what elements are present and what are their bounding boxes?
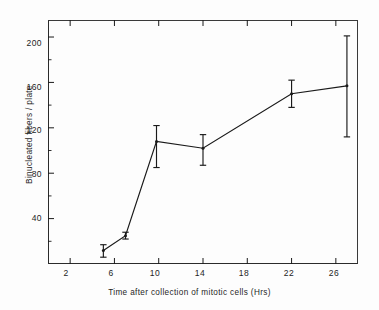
y-axis-title: Binucleated fibers / plate: [25, 60, 34, 210]
x-axis-title: Time after collection of mitotic cells (…: [0, 288, 379, 297]
figure: 200 160 120 80 40 2 6 10 14 18 22 26 Tim…: [0, 0, 379, 310]
x-tick-label: 10: [144, 268, 166, 278]
x-tick-label: 26: [323, 268, 345, 278]
x-tick-label: 6: [100, 268, 122, 278]
x-tick-label: 22: [278, 268, 300, 278]
x-tick-label: 2: [55, 268, 77, 278]
x-tick-label: 18: [233, 268, 255, 278]
y-tick-label: 200: [16, 38, 42, 48]
x-tick-label: 14: [189, 268, 211, 278]
plot-frame: [48, 20, 358, 264]
y-tick-label: 40: [16, 213, 42, 223]
